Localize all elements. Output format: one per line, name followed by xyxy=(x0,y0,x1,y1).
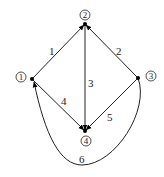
node-3: 3 xyxy=(146,71,156,81)
node-4-dot xyxy=(83,129,87,133)
edge-label-2: 2 xyxy=(116,45,122,57)
edge-2 xyxy=(86,25,138,78)
edge-label-4: 4 xyxy=(61,95,67,107)
node-2: 2 xyxy=(80,10,90,20)
node-1: 1 xyxy=(16,72,26,82)
edge-1 xyxy=(32,25,84,79)
svg-text:2: 2 xyxy=(83,10,88,20)
edge-label-1: 1 xyxy=(49,45,55,57)
node-3-dot xyxy=(136,76,140,80)
edge-label-5: 5 xyxy=(107,111,113,123)
directed-graph: 1 2 3 4 5 6 1 2 3 4 xyxy=(0,0,164,177)
node-1-dot xyxy=(30,77,34,81)
edge-label-6: 6 xyxy=(79,153,85,165)
node-2-dot xyxy=(83,22,87,26)
node-4: 4 xyxy=(81,136,91,146)
svg-text:3: 3 xyxy=(149,71,154,81)
svg-text:1: 1 xyxy=(19,72,24,82)
svg-text:4: 4 xyxy=(84,136,89,146)
edge-label-3: 3 xyxy=(88,77,94,89)
